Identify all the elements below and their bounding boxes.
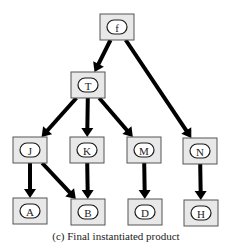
- node-f: f: [100, 14, 134, 40]
- node-label: f: [115, 22, 119, 34]
- node-M: M: [127, 137, 161, 163]
- edge-line: [47, 98, 76, 131]
- edge-M-D: [139, 163, 151, 199]
- arrowhead-icon: [82, 190, 94, 199]
- edge-line: [126, 40, 187, 131]
- arrowhead-icon: [24, 189, 36, 198]
- node-label: D: [141, 207, 149, 219]
- node-B: B: [71, 199, 105, 225]
- node-A: A: [13, 198, 47, 224]
- arrowhead-icon: [81, 128, 93, 137]
- arrowhead-icon: [195, 191, 207, 200]
- edge-f-T: [93, 40, 110, 72]
- node-label: H: [197, 208, 205, 220]
- edge-J-A: [24, 163, 36, 198]
- figure-caption: (c) Final instantiated product: [0, 230, 232, 242]
- arrowhead-icon: [139, 190, 151, 199]
- edge-T-K: [81, 98, 93, 137]
- node-label: N: [196, 146, 204, 158]
- node-label: M: [139, 145, 149, 157]
- edge-T-M: [99, 98, 133, 137]
- node-J: J: [13, 137, 47, 163]
- nodes-layer: fTJKMNABDH: [13, 14, 218, 226]
- node-D: D: [128, 199, 162, 225]
- edge-line: [42, 163, 70, 193]
- node-K: K: [70, 137, 104, 163]
- edge-line: [99, 98, 127, 131]
- node-label: T: [85, 80, 92, 92]
- node-label: K: [83, 145, 91, 157]
- edge-J-B: [42, 163, 76, 199]
- edge-K-B: [82, 163, 94, 199]
- edge-T-J: [42, 98, 77, 137]
- node-N: N: [183, 138, 217, 164]
- node-label: B: [84, 207, 91, 219]
- node-T: T: [71, 72, 105, 98]
- node-H: H: [184, 200, 218, 226]
- edge-N-H: [195, 164, 207, 200]
- edges-layer: [24, 40, 207, 200]
- tree-diagram: fTJKMNABDH: [0, 0, 232, 228]
- node-label: A: [26, 206, 34, 218]
- edge-f-N: [126, 40, 192, 138]
- node-label: J: [28, 145, 33, 157]
- edge-line: [98, 40, 110, 65]
